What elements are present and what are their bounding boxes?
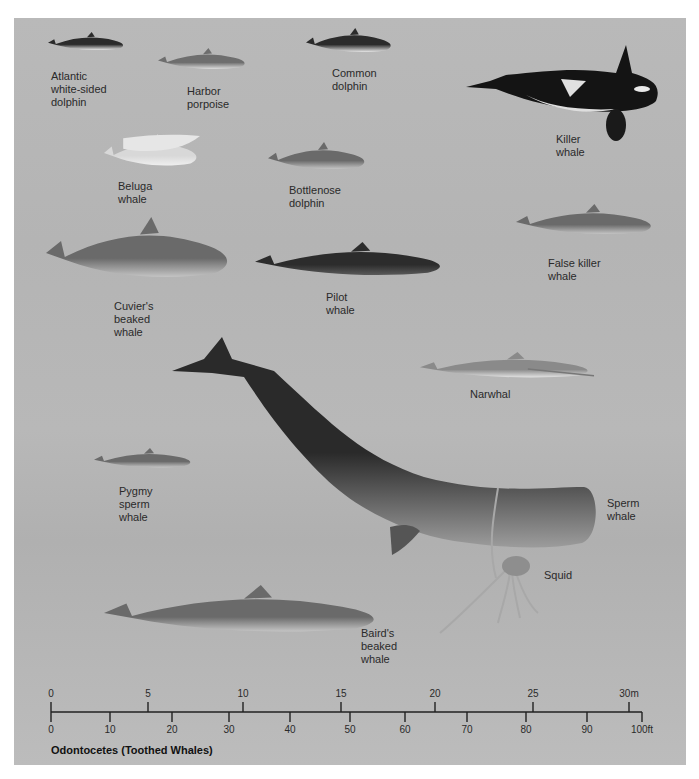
scale-metric-tick-label: 20 <box>429 688 440 699</box>
scale-imperial-tick-label: 90 <box>581 724 592 735</box>
false-killer-whale-label: False killer whale <box>548 257 601 283</box>
scale-metric-tick-label: 0 <box>48 688 54 699</box>
pilot-whale-label: Pilot whale <box>326 291 355 317</box>
squid-label: Squid <box>544 569 572 582</box>
scale-metric-tick-label: 30m <box>619 688 638 699</box>
scale-imperial-tick-label: 40 <box>284 724 295 735</box>
atlantic-white-sided-dolphin-illustration <box>48 32 126 56</box>
scale-imperial-tick-label: 0 <box>48 724 54 735</box>
scale-metric-tick-label: 25 <box>527 688 538 699</box>
killer-whale-illustration <box>466 45 658 143</box>
harbor-porpoise-label: Harbor porpoise <box>187 85 229 111</box>
beluga-whale-label: Beluga whale <box>118 180 152 206</box>
bottlenose-dolphin-illustration <box>268 142 368 178</box>
scale-imperial-tick-label: 20 <box>166 724 177 735</box>
scale-imperial-tick-label: 30 <box>223 724 234 735</box>
scale-metric-tick-label: 10 <box>237 688 248 699</box>
bairds-beaked-whale-illustration <box>104 585 384 647</box>
scale-imperial-tick-label: 60 <box>399 724 410 735</box>
scale-imperial-tick-label: 70 <box>461 724 472 735</box>
beluga-whale-illustration <box>104 134 200 176</box>
bottlenose-dolphin-label: Bottlenose dolphin <box>289 184 341 210</box>
scale-imperial-tick-label: 80 <box>520 724 531 735</box>
cuviers-beaked-whale-label: Cuvier's beaked whale <box>114 300 153 339</box>
cuviers-beaked-whale-illustration <box>46 217 234 297</box>
narwhal-label: Narwhal <box>470 388 510 401</box>
pygmy-sperm-whale-label: Pygmy sperm whale <box>119 485 153 524</box>
harbor-porpoise-illustration <box>158 48 248 76</box>
killer-whale-label: Killer whale <box>556 133 585 159</box>
pilot-whale-illustration <box>255 242 447 286</box>
bairds-beaked-whale-label: Baird's beaked whale <box>361 627 397 666</box>
scale-imperial-tick-label: 10 <box>104 724 115 735</box>
scale-metric-tick-label: 15 <box>335 688 346 699</box>
scale-imperial-tick-label: 50 <box>344 724 355 735</box>
common-dolphin-illustration <box>306 28 394 60</box>
common-dolphin-label: Common dolphin <box>332 67 377 93</box>
atlantic-white-sided-dolphin-label: Atlantic white-sided dolphin <box>51 70 107 109</box>
scale-imperial-tick-label: 100ft <box>631 724 653 735</box>
false-killer-whale-illustration <box>516 204 656 244</box>
scale-metric-tick-label: 5 <box>145 688 151 699</box>
squid-illustration <box>438 488 540 633</box>
sperm-whale-label: Sperm whale <box>607 497 639 523</box>
figure-caption: Odontocetes (Toothed Whales) <box>51 744 213 756</box>
